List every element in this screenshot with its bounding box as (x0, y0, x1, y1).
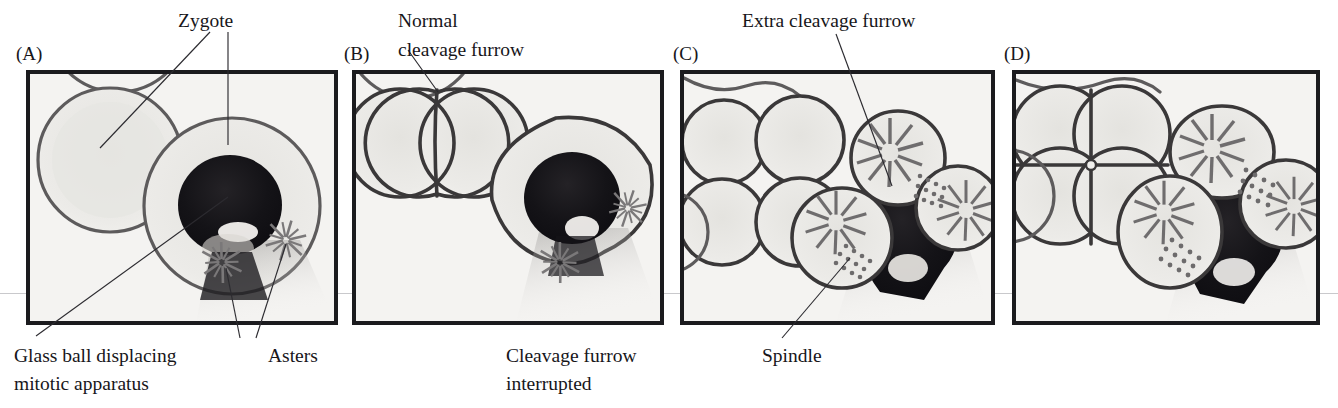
panel-c[interactable] (628, 72, 1000, 323)
label-cleavage-furrow-interrupted-line1: Cleavage furrow (506, 345, 636, 366)
glass-ball-d-highlight (1213, 258, 1255, 286)
label-glass-ball-line2: mitotic apparatus (14, 373, 149, 394)
figure-root: (A) (B) (C) (D) Zygote Normal cleavage f… (0, 0, 1338, 408)
glass-ball-c-highlight (888, 254, 928, 282)
panel-d[interactable] (962, 72, 1332, 323)
label-zygote: Zygote (178, 10, 233, 31)
label-normal-cleavage-furrow-line1: Normal (398, 10, 458, 31)
figure-svg: (A) (B) (C) (D) Zygote Normal cleavage f… (0, 0, 1338, 408)
label-normal-cleavage-furrow-line2: cleavage furrow (398, 39, 524, 60)
panel-letter-d: (D) (1004, 43, 1030, 65)
label-extra-cleavage-furrow: Extra cleavage furrow (742, 10, 915, 31)
panel-letter-c: (C) (673, 43, 698, 65)
label-asters: Asters (268, 345, 318, 366)
furrow-center-d (1086, 160, 1096, 170)
label-glass-ball-line1: Glass ball displacing (14, 345, 177, 366)
panel-letter-b: (B) (344, 43, 369, 65)
normal-cleavage-furrow (435, 90, 437, 196)
label-cleavage-furrow-interrupted-line2: interrupted (506, 373, 592, 394)
panel-letter-a: (A) (16, 43, 42, 65)
label-spindle: Spindle (762, 345, 822, 366)
